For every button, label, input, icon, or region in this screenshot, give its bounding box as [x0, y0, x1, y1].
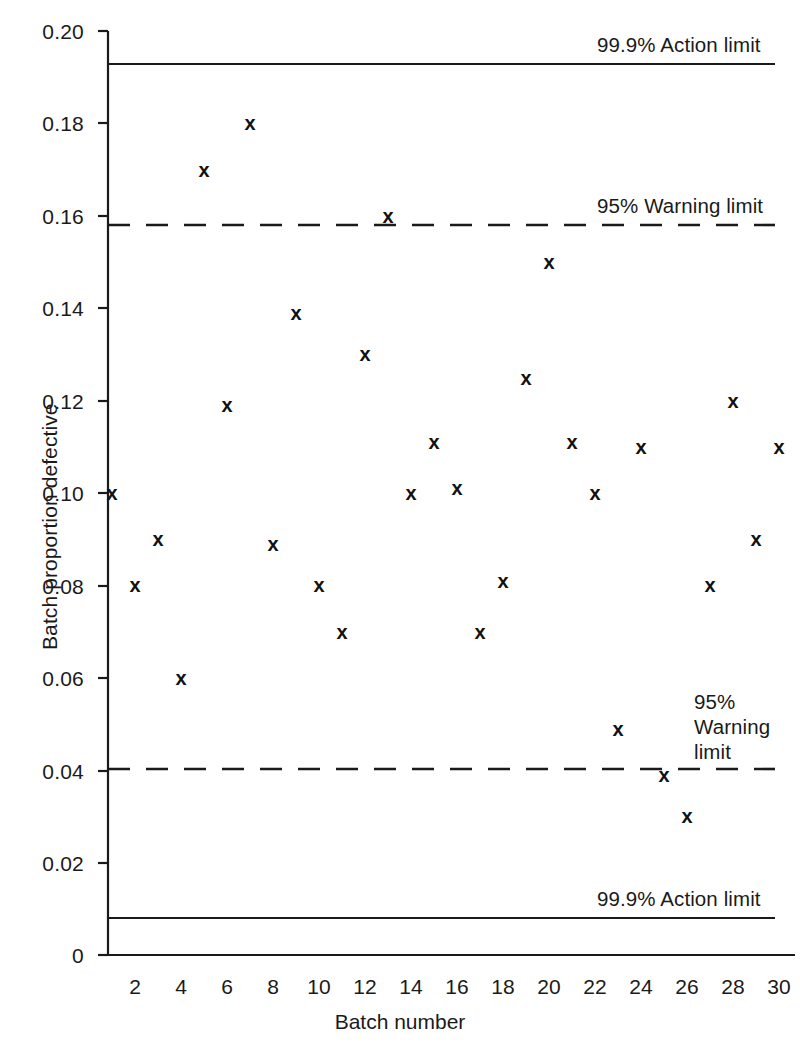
data-point-batch-8: x: [267, 534, 278, 554]
data-point-batch-11: x: [336, 622, 347, 642]
data-point-batch-14: x: [405, 483, 416, 503]
data-point-batch-2: x: [129, 575, 140, 595]
data-point-batch-13: x: [382, 206, 393, 226]
x-tick-label-20: 20: [529, 976, 569, 997]
data-point-batch-30: x: [773, 437, 784, 457]
data-point-batch-15: x: [428, 432, 439, 452]
x-tick-label-6: 6: [207, 976, 247, 997]
data-point-batch-9: x: [290, 303, 301, 323]
data-point-batch-7: x: [244, 113, 255, 133]
data-point-batch-5: x: [198, 160, 209, 180]
data-point-batch-23: x: [612, 719, 623, 739]
x-tick-label-30: 30: [759, 976, 799, 997]
data-point-batch-22: x: [589, 483, 600, 503]
data-point-batch-17: x: [474, 622, 485, 642]
y-tick-label-0.02: 0.02: [42, 853, 84, 874]
data-point-batch-29: x: [750, 529, 761, 549]
x-tick-label-22: 22: [575, 976, 615, 997]
lower-warning-limit-label-line2: Warning: [694, 715, 770, 739]
x-tick-label-14: 14: [391, 976, 431, 997]
control-chart: 0.20 0.18 0.16 0.14 0.12 0.10 0.08 0.06 …: [0, 0, 800, 1044]
data-point-batch-1: x: [106, 483, 117, 503]
data-point-batch-24: x: [635, 437, 646, 457]
y-axis-title: Batch proportion defective: [38, 403, 62, 650]
y-tick-label-0.14: 0.14: [42, 298, 84, 319]
data-point-batch-19: x: [520, 368, 531, 388]
x-tick-label-26: 26: [667, 976, 707, 997]
data-point-batch-12: x: [359, 344, 370, 364]
y-tick-label-0.20: 0.20: [42, 21, 84, 42]
data-point-batch-20: x: [543, 252, 554, 272]
lower-warning-limit-label-line1: 95%: [694, 690, 735, 714]
x-axis-title: Batch number: [0, 1010, 800, 1034]
data-point-batch-27: x: [704, 575, 715, 595]
x-tick-label-28: 28: [713, 976, 753, 997]
data-point-batch-26: x: [681, 806, 692, 826]
x-tick-label-4: 4: [161, 976, 201, 997]
lower-warning-limit-label-line3: limit: [694, 740, 731, 764]
data-point-batch-10: x: [313, 575, 324, 595]
data-point-batch-3: x: [152, 529, 163, 549]
data-point-batch-25: x: [658, 765, 669, 785]
data-point-batch-4: x: [175, 668, 186, 688]
x-tick-label-2: 2: [115, 976, 155, 997]
data-point-batch-18: x: [497, 571, 508, 591]
x-tick-label-12: 12: [345, 976, 385, 997]
y-tick-label-0.04: 0.04: [42, 761, 84, 782]
data-point-batch-28: x: [727, 391, 738, 411]
lower-action-limit-label: 99.9% Action limit: [597, 887, 761, 911]
data-point-batch-16: x: [451, 478, 462, 498]
upper-action-limit-label: 99.9% Action limit: [597, 33, 761, 57]
data-point-batch-6: x: [221, 395, 232, 415]
x-tick-label-24: 24: [621, 976, 661, 997]
y-tick-label-0.06: 0.06: [42, 668, 84, 689]
y-tick-label-0.16: 0.16: [42, 206, 84, 227]
y-tick-label-0: 0: [72, 945, 84, 966]
data-point-batch-21: x: [566, 432, 577, 452]
x-tick-label-16: 16: [437, 976, 477, 997]
x-tick-label-10: 10: [299, 976, 339, 997]
x-tick-label-18: 18: [483, 976, 523, 997]
y-tick-label-0.18: 0.18: [42, 113, 84, 134]
upper-warning-limit-label: 95% Warning limit: [597, 194, 763, 218]
x-tick-label-8: 8: [253, 976, 293, 997]
